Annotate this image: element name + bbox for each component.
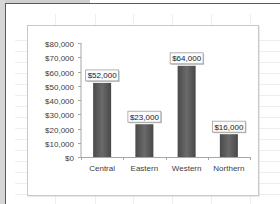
data-label: $52,000: [88, 71, 117, 80]
x-category-label: Northern: [213, 164, 244, 173]
bar-northern: [220, 134, 238, 157]
y-tick-label: $0: [65, 154, 74, 163]
y-tick-label: $70,000: [45, 54, 74, 63]
bar-eastern: [135, 124, 153, 157]
y-tick-label: $60,000: [45, 69, 74, 78]
bar-chart: $0$10,000$20,000$30,000$40,000$50,000$60…: [0, 0, 280, 204]
data-label: $64,000: [172, 54, 201, 63]
y-tick-label: $80,000: [45, 40, 74, 49]
y-tick-label: $10,000: [45, 140, 74, 149]
y-tick-label: $50,000: [45, 83, 74, 92]
bar-western: [178, 66, 196, 157]
y-tick-label: $20,000: [45, 126, 74, 135]
x-category-label: Eastern: [131, 164, 159, 173]
x-category-label: Western: [172, 164, 202, 173]
bar-central: [93, 83, 111, 157]
data-label: $16,000: [214, 123, 243, 132]
y-tick-label: $30,000: [45, 111, 74, 120]
data-label: $23,000: [130, 113, 159, 122]
x-category-label: Central: [89, 164, 115, 173]
y-tick-label: $40,000: [45, 97, 74, 106]
